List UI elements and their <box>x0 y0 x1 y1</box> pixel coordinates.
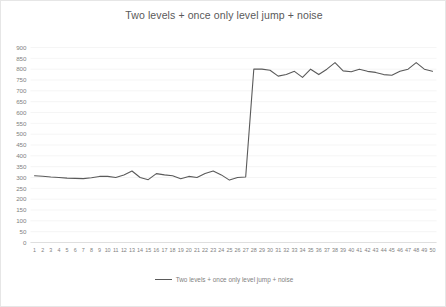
x-tick-label-43: 43 <box>373 247 379 253</box>
x-tick-label-40: 40 <box>348 247 354 253</box>
y-tick-label-850: 850 <box>16 55 27 62</box>
x-tick-label-15: 15 <box>145 247 151 253</box>
legend-line-marker <box>155 279 172 280</box>
x-tick-label-25: 25 <box>226 247 232 253</box>
x-tick-label-11: 11 <box>113 247 119 253</box>
x-tick-label-35: 35 <box>308 247 314 253</box>
legend-entry-label: Two levels + once only level jump + nois… <box>176 276 294 283</box>
x-tick-label-28: 28 <box>251 247 257 253</box>
x-tick-label-36: 36 <box>316 247 322 253</box>
y-tick-label-50: 50 <box>20 228 27 235</box>
y-tick-label-450: 450 <box>16 141 27 148</box>
x-tick-label-48: 48 <box>413 247 419 253</box>
x-tick-label-13: 13 <box>129 247 135 253</box>
x-tick-label-26: 26 <box>235 247 241 253</box>
x-tick-label-4: 4 <box>57 247 60 253</box>
x-tick-label-24: 24 <box>218 247 224 253</box>
x-tick-label-45: 45 <box>389 247 395 253</box>
x-tick-label-19: 19 <box>178 247 184 253</box>
y-axis-tick-labels: 0501001502002503003504004505005506006507… <box>16 44 27 246</box>
x-tick-label-32: 32 <box>283 247 289 253</box>
x-tick-label-3: 3 <box>49 247 52 253</box>
y-tick-label-800: 800 <box>16 65 27 72</box>
x-tick-label-30: 30 <box>267 247 273 253</box>
x-axis-tick-labels: 1234567891011121314151617181920212223242… <box>33 247 435 253</box>
x-tick-label-1: 1 <box>33 247 36 253</box>
x-tick-label-44: 44 <box>381 247 387 253</box>
y-tick-label-250: 250 <box>16 185 27 192</box>
x-tick-label-2: 2 <box>41 247 44 253</box>
x-tick-label-39: 39 <box>340 247 346 253</box>
x-tick-label-5: 5 <box>66 247 69 253</box>
x-tick-label-17: 17 <box>161 247 167 253</box>
y-tick-label-0: 0 <box>23 239 27 246</box>
x-tick-label-50: 50 <box>429 247 435 253</box>
x-tick-label-8: 8 <box>90 247 93 253</box>
y-tick-label-200: 200 <box>16 195 27 202</box>
x-tick-label-42: 42 <box>364 247 370 253</box>
x-tick-label-38: 38 <box>332 247 338 253</box>
x-tick-label-34: 34 <box>300 247 306 253</box>
x-tick-label-23: 23 <box>210 247 216 253</box>
x-tick-label-49: 49 <box>421 247 427 253</box>
y-tick-label-150: 150 <box>16 206 27 213</box>
x-tick-label-20: 20 <box>186 247 192 253</box>
y-tick-label-750: 750 <box>16 76 27 83</box>
y-tick-label-500: 500 <box>16 130 27 137</box>
x-tick-label-41: 41 <box>356 247 362 253</box>
y-tick-label-650: 650 <box>16 98 27 105</box>
y-tick-label-400: 400 <box>16 152 27 159</box>
y-tick-label-600: 600 <box>16 109 27 116</box>
x-tick-label-46: 46 <box>397 247 403 253</box>
x-tick-label-31: 31 <box>275 247 281 253</box>
x-tick-label-27: 27 <box>243 247 249 253</box>
y-tick-label-700: 700 <box>16 87 27 94</box>
y-tick-label-550: 550 <box>16 120 27 127</box>
y-tick-label-350: 350 <box>16 163 27 170</box>
plot-area: 0501001502002503003504004505005506006507… <box>1 1 446 307</box>
x-tick-label-9: 9 <box>98 247 101 253</box>
chart-container: Two levels + once only level jump + nois… <box>0 0 446 307</box>
x-tick-label-18: 18 <box>170 247 176 253</box>
x-tick-label-37: 37 <box>324 247 330 253</box>
chart-svg: 0501001502002503003504004505005506006507… <box>1 1 446 307</box>
y-tick-label-300: 300 <box>16 174 27 181</box>
x-tick-label-33: 33 <box>291 247 297 253</box>
y-tick-label-100: 100 <box>16 217 27 224</box>
x-tick-label-6: 6 <box>74 247 77 253</box>
x-tick-label-7: 7 <box>82 247 85 253</box>
x-tick-label-22: 22 <box>202 247 208 253</box>
y-tick-label-900: 900 <box>16 44 27 51</box>
chart-legend: Two levels + once only level jump + nois… <box>1 276 446 283</box>
x-tick-label-16: 16 <box>153 247 159 253</box>
x-tick-label-21: 21 <box>194 247 200 253</box>
x-tick-label-29: 29 <box>259 247 265 253</box>
x-tick-label-12: 12 <box>121 247 127 253</box>
x-tick-label-47: 47 <box>405 247 411 253</box>
x-tick-label-14: 14 <box>137 247 143 253</box>
x-tick-label-10: 10 <box>105 247 111 253</box>
gridlines <box>31 48 437 243</box>
